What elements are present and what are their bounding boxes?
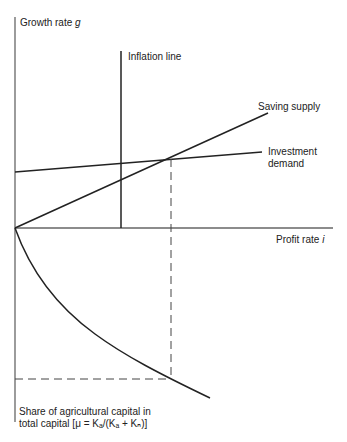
profit-rate-label: Profit rate i — [276, 234, 324, 246]
growth-rate-label: Growth rate g — [20, 17, 81, 29]
agricultural-share-line2: total capital [μ = Kₐ/(Kₐ + Kₙ)] — [19, 418, 151, 430]
growth-rate-text: Growth rate — [20, 17, 75, 28]
inflation-line-label: Inflation line — [128, 51, 181, 63]
agricultural-share-line1: Share of agricultural capital in — [19, 406, 151, 418]
saving-supply-line — [15, 113, 268, 228]
agricultural-share-label: Share of agricultural capital in total c… — [19, 406, 151, 430]
investment-demand-label: Investment demand — [268, 146, 317, 170]
diagram-canvas — [0, 0, 347, 442]
investment-demand-line — [15, 152, 262, 172]
agricultural-share-curve — [15, 228, 210, 398]
investment-label-line2: demand — [268, 158, 317, 170]
profit-rate-var: i — [322, 234, 324, 245]
saving-supply-label: Saving supply — [258, 101, 320, 113]
profit-rate-text: Profit rate — [276, 234, 322, 245]
investment-label-line1: Investment — [268, 146, 317, 158]
growth-rate-var: g — [75, 17, 81, 28]
